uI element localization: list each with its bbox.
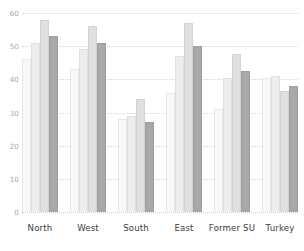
bar[interactable]: [271, 76, 280, 212]
y-axis-tick-label: 0: [14, 208, 19, 217]
y-axis-tick-label: 20: [10, 141, 19, 150]
y-axis-tick-label: 10: [10, 174, 19, 183]
x-axis-tick-label: West: [77, 214, 99, 233]
bar-groups: [22, 13, 298, 212]
y-axis-tick-label: 40: [10, 75, 19, 84]
bar[interactable]: [262, 78, 271, 212]
bar[interactable]: [166, 93, 175, 212]
bar[interactable]: [22, 59, 31, 212]
x-axis-tick-label: East: [174, 214, 193, 233]
bar[interactable]: [232, 54, 241, 212]
y-axis-tick-label: 60: [10, 9, 19, 18]
y-axis-tick-label: 30: [10, 108, 19, 117]
bar[interactable]: [289, 86, 298, 212]
x-axis: NorthWestSouthEastFormer SUTurkey: [22, 214, 298, 242]
bar[interactable]: [31, 43, 40, 212]
bar-group-south: [118, 13, 154, 212]
y-axis-tick-label: 50: [10, 42, 19, 51]
y-axis: 0102030405060: [0, 0, 22, 251]
bar-chart: 0102030405060 NorthWestSouthEastFormer S…: [0, 0, 304, 251]
bar[interactable]: [79, 49, 88, 212]
plot-area: [22, 13, 298, 212]
bar-group-north: [22, 13, 58, 212]
x-axis-tick-label: Turkey: [266, 214, 295, 233]
bar[interactable]: [145, 122, 154, 212]
bar-group-former-su: [214, 13, 250, 212]
bar[interactable]: [118, 119, 127, 212]
bar[interactable]: [88, 26, 97, 212]
bar[interactable]: [214, 109, 223, 212]
bar[interactable]: [40, 20, 49, 212]
x-axis-tick-label: South: [123, 214, 149, 233]
bar-group-west: [70, 13, 106, 212]
bar[interactable]: [127, 116, 136, 212]
gridline: [22, 212, 298, 213]
x-axis-tick-label: Former SU: [209, 214, 255, 233]
x-axis-tick-label: North: [28, 214, 53, 233]
bar[interactable]: [223, 78, 232, 212]
bar-group-east: [166, 13, 202, 212]
bar[interactable]: [97, 43, 106, 212]
bar[interactable]: [193, 46, 202, 212]
bar[interactable]: [280, 91, 289, 212]
bar[interactable]: [70, 69, 79, 212]
bar[interactable]: [175, 56, 184, 212]
bar-group-turkey: [262, 13, 298, 212]
bar[interactable]: [49, 36, 58, 212]
bar[interactable]: [241, 71, 250, 212]
bar[interactable]: [184, 23, 193, 212]
bar[interactable]: [136, 99, 145, 212]
